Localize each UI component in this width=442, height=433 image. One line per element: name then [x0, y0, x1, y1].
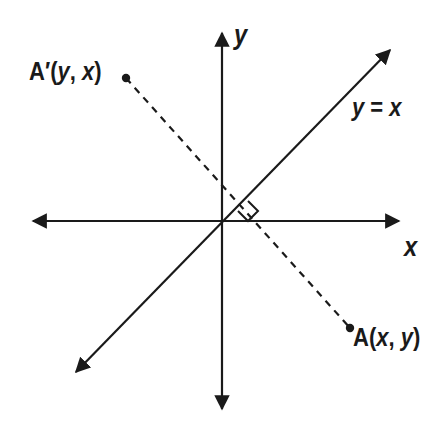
line-equation-label: y = x [352, 95, 402, 120]
x-axis-label: x [404, 234, 417, 261]
y-axis-label: y [234, 22, 247, 49]
reflection-diagram: y x y = x A′(y, x) A(x, y) [0, 0, 442, 433]
point-a-prime-marker [122, 74, 130, 82]
point-a-prime-label: A′(y, x) [29, 59, 102, 84]
equals-sign: = [364, 93, 389, 121]
point-a-label: A(x, y) [353, 325, 420, 350]
segment-a-to-a-prime [126, 78, 350, 328]
line-y-equals-x [76, 50, 390, 372]
